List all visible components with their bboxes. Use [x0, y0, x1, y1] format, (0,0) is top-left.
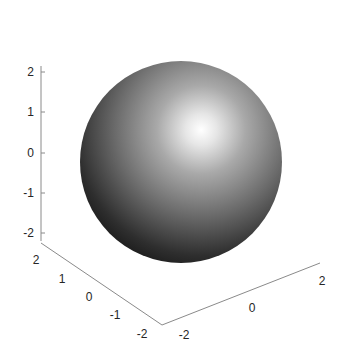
x-tick-label: 2: [319, 274, 326, 288]
z-tick-label: 1: [27, 105, 34, 119]
y-tick-label: 1: [59, 272, 66, 286]
z-tick-label: 2: [27, 65, 34, 79]
y-tick-label: -1: [110, 308, 121, 322]
y-axis: 2 1 0 -1 -2: [33, 243, 162, 341]
y-tick-label: 2: [33, 253, 40, 267]
sphere-plot: 2 1 0 -1 -2 2 1 0 -1 -2 -2 0 2: [0, 0, 344, 361]
x-tick-label: -2: [179, 328, 190, 342]
sphere-surface: [80, 61, 282, 263]
x-tick-label: 0: [249, 301, 256, 315]
y-tick-label: -2: [137, 327, 148, 341]
z-tick-label: -1: [23, 186, 34, 200]
z-axis: 2 1 0 -1 -2: [23, 65, 45, 241]
y-tick-label: 0: [86, 290, 93, 304]
x-axis: -2 0 2: [162, 263, 326, 342]
z-tick-label: -2: [23, 226, 34, 240]
z-tick-label: 0: [27, 146, 34, 160]
